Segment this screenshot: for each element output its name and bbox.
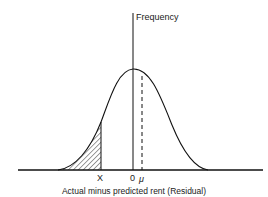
zero-label: 0	[130, 173, 135, 183]
x-point-label: X	[97, 173, 103, 183]
mean-label: μ	[138, 174, 144, 184]
y-axis-label: Frequency	[136, 12, 179, 22]
shaded-tail-region	[58, 122, 101, 170]
x-axis-label: Actual minus predicted rent (Residual)	[62, 186, 206, 196]
normal-curve-diagram: Frequency X 0 μ Actual minus predicted r…	[0, 0, 268, 197]
